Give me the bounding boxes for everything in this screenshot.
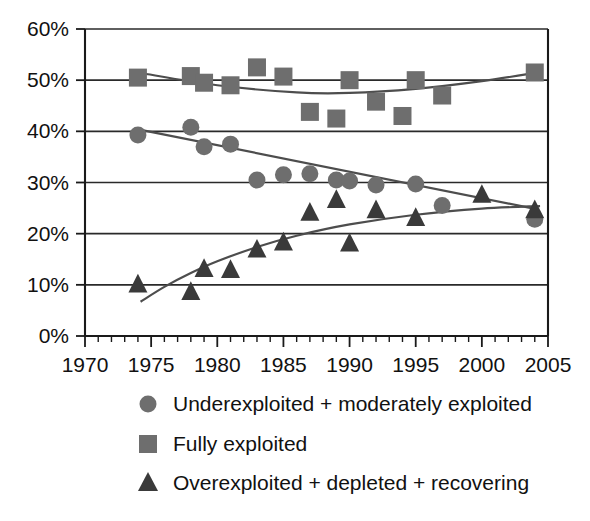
data-point-circle <box>182 119 199 136</box>
data-point-square <box>433 87 451 105</box>
data-point-square <box>222 76 240 94</box>
data-point-square <box>407 71 425 89</box>
y-tick-label-20: 20% <box>27 222 69 245</box>
data-point-square <box>274 68 292 86</box>
x-tick-label-1995: 1995 <box>392 353 439 376</box>
data-point-circle <box>129 126 146 143</box>
data-point-square <box>129 69 147 87</box>
data-point-circle <box>341 172 358 189</box>
legend-label-1: Fully exploited <box>173 432 307 455</box>
x-tick-label-2005: 2005 <box>525 353 572 376</box>
data-point-square <box>327 110 345 128</box>
y-tick-label-0: 0% <box>39 324 69 347</box>
legend-label-2: Overexploited + depleted + recovering <box>173 471 529 494</box>
y-tick-label-30: 30% <box>27 171 69 194</box>
legend-label-0: Underexploited + moderately exploited <box>173 392 532 415</box>
data-point-circle <box>275 166 292 183</box>
legend-marker-circle-icon <box>140 396 157 413</box>
y-tick-label-40: 40% <box>27 119 69 142</box>
x-tick-label-1970: 1970 <box>62 353 109 376</box>
x-tick-label-1990: 1990 <box>326 353 373 376</box>
data-point-circle <box>196 138 213 155</box>
y-tick-label-60: 60% <box>27 17 69 40</box>
x-tick-label-2000: 2000 <box>458 353 505 376</box>
data-point-circle <box>248 171 265 188</box>
data-point-circle <box>222 136 239 153</box>
data-point-square <box>526 63 544 81</box>
y-tick-label-10: 10% <box>27 273 69 296</box>
data-point-square <box>301 103 319 121</box>
x-tick-label-1985: 1985 <box>260 353 307 376</box>
data-point-square <box>367 93 385 111</box>
data-point-square <box>248 58 266 76</box>
data-point-circle <box>301 165 318 182</box>
chart-figure: 0%10%20%30%40%50%60% 1970197519801985199… <box>0 0 590 521</box>
x-tick-label-1975: 1975 <box>128 353 175 376</box>
x-tick-label-1980: 1980 <box>194 353 241 376</box>
data-point-circle <box>407 176 424 193</box>
chart-svg: 0%10%20%30%40%50%60% 1970197519801985199… <box>0 0 590 521</box>
data-point-square <box>195 74 213 92</box>
y-tick-label-50: 50% <box>27 68 69 91</box>
data-point-square <box>341 71 359 89</box>
data-point-circle <box>434 197 451 214</box>
legend-marker-square-icon <box>139 435 157 453</box>
data-point-square <box>393 107 411 125</box>
data-point-circle <box>368 177 385 194</box>
